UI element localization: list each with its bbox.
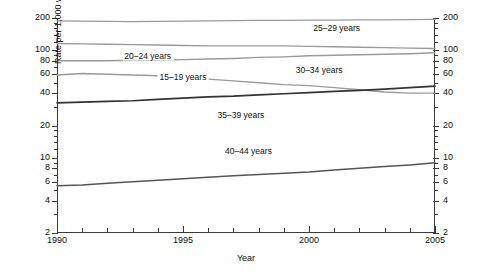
series-label-15-19 years: 15–19 years (158, 73, 209, 82)
series-line-20-24 years (57, 43, 435, 48)
series-line-40-44 years (57, 163, 435, 186)
y-tick-major (52, 233, 58, 234)
series-label-20-24 years: 20–24 years (122, 52, 173, 61)
x-tick-label: 2005 (425, 236, 445, 245)
y-tick-label: 100 (35, 45, 50, 54)
y-tick-label: 80 (40, 56, 50, 65)
y-tick-label: 200 (443, 13, 458, 22)
y-tick-label: 10 (40, 153, 50, 162)
series-line-35-39 years (57, 86, 435, 103)
y-tick-label: 80 (443, 56, 453, 65)
y-tick-label: 8 (443, 163, 448, 172)
x-tick-major (435, 226, 436, 233)
y-tick-label: 40 (443, 88, 453, 97)
y-tick-label: 4 (45, 196, 50, 205)
series-label-30-34 years: 30–34 years (294, 65, 345, 74)
y-tick-label: 100 (443, 45, 458, 54)
y-tick-label: 60 (40, 69, 50, 78)
y-tick-label: 200 (35, 13, 50, 22)
x-axis-title: Year (237, 254, 255, 263)
y-tick-label: 40 (40, 88, 50, 97)
y-tick-label: 8 (45, 163, 50, 172)
series-lines (57, 18, 435, 233)
plot-area: 20010080604020108642 2001008060402010864… (57, 18, 435, 233)
figure: 20010080604020108642 2001008060402010864… (0, 0, 486, 272)
series-label-40-44 years: 40–44 years (223, 147, 274, 156)
y-tick-label: 20 (40, 121, 50, 130)
series-label-35-39 years: 35–39 years (216, 111, 267, 120)
y-tick-label: 20 (443, 121, 453, 130)
y-tick-label: 6 (45, 177, 50, 186)
y-tick-label: 4 (443, 196, 448, 205)
y-axis-title: Rate per 1,000 women in specified age gr… (53, 52, 63, 64)
series-line-30-34 years (57, 53, 435, 61)
y-tick-label: 10 (443, 153, 453, 162)
y-tick-label: 60 (443, 69, 453, 78)
series-label-25-29 years: 25–29 years (311, 24, 362, 33)
x-tick-label: 2000 (299, 236, 319, 245)
y-tick-major (433, 233, 439, 234)
series-line-25-29 years (57, 19, 435, 21)
x-tick-label: 1990 (47, 236, 67, 245)
y-tick-label: 6 (443, 177, 448, 186)
x-tick-label: 1995 (173, 236, 193, 245)
